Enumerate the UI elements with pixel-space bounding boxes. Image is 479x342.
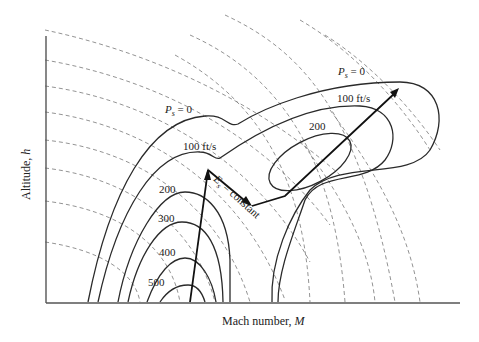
label-ps300: 300: [158, 212, 175, 224]
contour-ps-300: [128, 222, 223, 302]
ps-contours: [88, 82, 439, 302]
contour-ps-0: [88, 82, 439, 302]
x-axis-label: Mach number, M: [222, 314, 306, 328]
y-axis-label: Altitude, h: [19, 149, 33, 200]
label-ps200-left: 200: [159, 183, 176, 195]
label-ps100-left: 100 ft/s: [183, 140, 216, 152]
climb-path: [190, 88, 399, 302]
energy-height-lines: [45, 15, 440, 302]
label-es-constant: Es = constant: [209, 172, 263, 223]
label-ps200-right: 200: [309, 120, 326, 132]
label-ps500: 500: [148, 276, 165, 288]
label-ps100-right: 100 ft/s: [337, 92, 370, 104]
label-ps0-left: Ps = 0: [164, 103, 193, 118]
contour-ps-500: [160, 285, 205, 302]
ps-contour-chart: Ps = 0 100 ft/s 200 300 400 500 Es = con…: [0, 0, 479, 342]
label-ps0-right: Ps = 0: [337, 65, 366, 80]
label-ps400: 400: [159, 246, 176, 258]
arrowhead-icon: [204, 168, 211, 180]
